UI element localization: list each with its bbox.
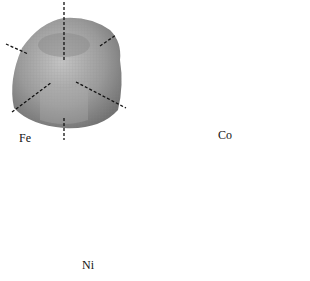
anisotropy-figure — [0, 0, 310, 281]
fe-surface — [6, 2, 126, 140]
fe-label: Fe — [19, 131, 31, 146]
ni-label: Ni — [82, 258, 94, 273]
co-label: Co — [218, 128, 232, 143]
